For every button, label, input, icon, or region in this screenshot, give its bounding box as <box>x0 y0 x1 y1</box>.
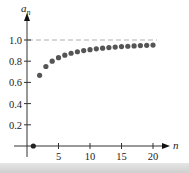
x-tick-label: 20 <box>148 151 159 162</box>
data-point <box>100 46 105 51</box>
x-tick-label: 10 <box>85 151 96 162</box>
y-tick-label: 0.2 <box>9 120 22 131</box>
data-point <box>144 43 149 48</box>
data-point <box>31 143 36 148</box>
x-axis-arrow-icon <box>162 143 170 149</box>
data-point <box>43 64 48 69</box>
data-point <box>113 45 118 50</box>
data-point <box>81 48 86 53</box>
data-points <box>31 42 156 148</box>
y-tick-label: 0.8 <box>9 56 22 67</box>
y-axis-label: an <box>21 2 31 17</box>
data-point <box>132 43 137 48</box>
data-point <box>56 55 61 60</box>
x-tick-label: 15 <box>116 151 127 162</box>
data-point <box>75 49 80 54</box>
y-ticks: 0.20.40.60.81.0 <box>9 35 31 131</box>
x-axis-label: n <box>173 139 179 151</box>
data-point <box>138 43 143 48</box>
y-tick-label: 0.6 <box>9 77 22 88</box>
bottom-shadow <box>0 163 189 173</box>
y-tick-label: 1.0 <box>9 35 22 46</box>
data-point <box>125 44 130 49</box>
data-point <box>94 46 99 51</box>
data-point <box>62 53 67 58</box>
data-point <box>37 73 42 78</box>
x-tick-label: 5 <box>56 151 61 162</box>
data-point <box>150 42 155 47</box>
data-point <box>106 45 111 50</box>
data-point <box>119 44 124 49</box>
y-tick-label: 0.4 <box>9 99 23 110</box>
data-point <box>87 47 92 52</box>
y-axis <box>24 13 30 157</box>
x-axis <box>14 143 170 149</box>
sequence-plot: 0.20.40.60.81.0 5101520 an n <box>0 0 189 173</box>
data-point <box>50 59 55 64</box>
data-point <box>69 51 74 56</box>
